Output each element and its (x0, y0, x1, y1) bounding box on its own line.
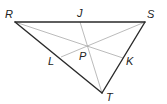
side-TR (15, 22, 102, 93)
label-P: P (79, 50, 87, 62)
label-J: J (76, 7, 83, 19)
label-S: S (147, 8, 155, 20)
triangle-diagram: R S T J K L P (0, 0, 167, 104)
label-K: K (126, 55, 134, 67)
label-R: R (5, 8, 13, 20)
label-T: T (106, 91, 114, 103)
cevian-RK (15, 22, 123, 58)
side-ST (102, 22, 145, 93)
label-L: L (48, 55, 54, 67)
